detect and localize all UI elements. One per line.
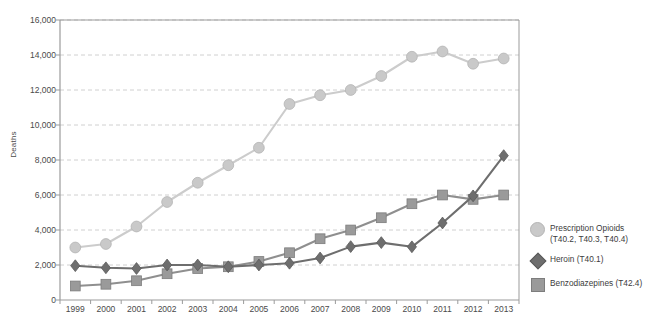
y-axis-tick: 4,000 [12, 225, 56, 235]
legend-label-prescription-opioids: Prescription Opioids (T40.2, T40.3, T40.… [550, 222, 628, 244]
data-point-circle [315, 90, 326, 101]
data-point-square [132, 276, 142, 286]
y-axis-tick: 14,000 [12, 50, 56, 60]
x-axis-tick: 2010 [402, 304, 421, 314]
chart-legend: Prescription Opioids (T40.2, T40.3, T40.… [529, 222, 669, 301]
data-point-diamond [316, 252, 325, 264]
data-point-circle [407, 51, 418, 62]
y-axis-tick: 6,000 [12, 190, 56, 200]
data-point-circle [468, 58, 479, 69]
data-point-circle [131, 221, 142, 232]
y-axis-tick-labels: 02,0004,0006,0008,00010,00012,00014,0001… [0, 0, 56, 323]
y-axis-tick: 12,000 [12, 85, 56, 95]
data-point-circle [498, 53, 509, 64]
x-axis-tick: 2002 [158, 304, 177, 314]
data-point-diamond [407, 241, 416, 253]
data-point-circle [192, 177, 203, 188]
x-axis-tick: 2000 [96, 304, 115, 314]
x-axis-tick: 2009 [372, 304, 391, 314]
data-point-circle [70, 242, 81, 253]
x-axis-tick: 2013 [494, 304, 513, 314]
data-point-circle [437, 46, 448, 57]
x-axis-tick: 2012 [464, 304, 483, 314]
diamond-marker-icon [529, 252, 545, 268]
x-axis-tick: 2004 [219, 304, 238, 314]
data-point-square [285, 248, 295, 258]
x-axis-tick: 2001 [127, 304, 146, 314]
data-point-square [407, 199, 417, 209]
data-point-square [101, 279, 111, 289]
data-point-diamond [285, 257, 294, 269]
y-axis-tick: 16,000 [12, 15, 56, 25]
x-axis-tick: 2003 [188, 304, 207, 314]
data-point-diamond [132, 263, 141, 275]
data-point-circle [162, 197, 173, 208]
legend-item-prescription-opioids[interactable]: Prescription Opioids (T40.2, T40.3, T40.… [529, 222, 669, 244]
x-axis-tick: 1999 [66, 304, 85, 314]
data-point-diamond [377, 237, 386, 249]
chart-container: Deaths 02,0004,0006,0008,00010,00012,000… [0, 0, 669, 323]
data-point-square [499, 190, 509, 200]
data-point-circle [254, 142, 265, 153]
y-axis-tick: 10,000 [12, 120, 56, 130]
legend-label-benzodiazepines: Benzodiazepines (T42.4) [550, 277, 642, 289]
y-axis-tick: 2,000 [12, 260, 56, 270]
data-point-circle [101, 239, 112, 250]
y-axis-tick: 8,000 [12, 155, 56, 165]
data-point-square [376, 213, 386, 223]
series-line [75, 52, 503, 248]
legend-item-benzodiazepines[interactable]: Benzodiazepines (T42.4) [529, 277, 669, 292]
data-point-square [346, 225, 356, 235]
square-marker-icon [529, 276, 545, 292]
data-point-circle [345, 85, 356, 96]
data-point-diamond [101, 262, 110, 274]
data-point-diamond [71, 260, 80, 272]
x-axis-tick: 2008 [341, 304, 360, 314]
data-point-circle [284, 99, 295, 110]
data-point-square [70, 281, 80, 291]
x-axis-tick: 2007 [311, 304, 330, 314]
data-point-square [315, 234, 325, 244]
data-point-square [438, 190, 448, 200]
y-axis-tick: 0 [12, 295, 56, 305]
series-line [75, 195, 503, 286]
x-axis-tick: 2006 [280, 304, 299, 314]
legend-item-heroin[interactable]: Heroin (T40.1) [529, 253, 669, 268]
x-axis-tick: 2011 [433, 304, 451, 314]
data-point-circle [376, 71, 387, 82]
legend-label-heroin: Heroin (T40.1) [550, 253, 604, 265]
data-point-diamond [346, 241, 355, 253]
x-axis-tick: 2005 [249, 304, 268, 314]
circle-marker-icon [529, 221, 545, 237]
data-point-circle [223, 160, 234, 171]
